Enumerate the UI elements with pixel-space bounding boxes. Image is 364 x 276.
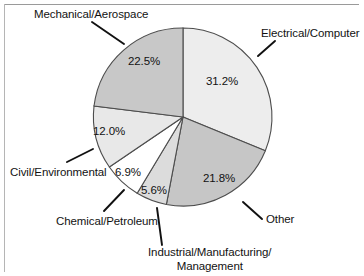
- value-chemical: 6.9%: [115, 166, 141, 178]
- label-industrial-manufacturing-management: Industrial/Manufacturing/ Management: [148, 246, 271, 273]
- label-other: Other: [266, 213, 294, 227]
- pie-chart-figure: Mechanical/Aerospace Electrical/Computer…: [0, 0, 364, 276]
- leader-line-mechanical-aerospace: [92, 22, 124, 44]
- label-chemical-petroleum: Chemical/Petroleum: [56, 215, 158, 229]
- leader-line-civil-environmental: [67, 149, 93, 162]
- pie-slice-mechanical-aerospace[interactable]: [94, 28, 183, 117]
- pie-chart-graphic: [0, 0, 364, 276]
- leader-line-industrial: [157, 208, 162, 245]
- value-electrical-computer: 31.2%: [206, 75, 238, 87]
- label-mechanical-aerospace: Mechanical/Aerospace: [34, 8, 148, 22]
- value-civil: 12.0%: [93, 125, 125, 137]
- leader-line-other: [243, 202, 262, 219]
- label-industrial-line1: Industrial/Manufacturing/: [148, 246, 271, 260]
- label-electrical-computer: Electrical/Computer: [261, 27, 359, 41]
- value-mechanical-aerospace: 22.5%: [128, 55, 160, 67]
- label-civil-environmental: Civil/Environmental: [10, 166, 107, 180]
- value-industrial: 5.6%: [141, 184, 167, 196]
- label-industrial-line2: Management: [148, 260, 271, 274]
- leader-line-chemical-petroleum: [104, 190, 124, 211]
- value-other: 21.8%: [203, 172, 235, 184]
- leader-line-electrical-computer: [258, 41, 275, 56]
